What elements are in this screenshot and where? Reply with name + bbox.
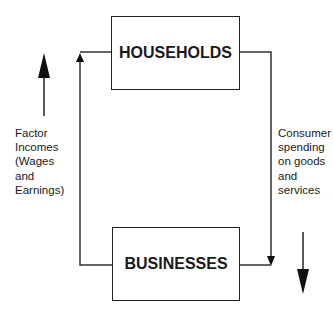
big-down-arrow-icon xyxy=(297,232,309,294)
consumer-spending-line: services xyxy=(278,183,331,197)
factor-incomes-line: and xyxy=(15,169,64,183)
consumer-spending-label: Consumer spending on goods and services xyxy=(278,126,331,197)
consumer-spending-line: spending xyxy=(278,140,331,154)
factor-incomes-label: Factor Incomes (Wages and Earnings) xyxy=(15,126,64,197)
businesses-node: BUSINESSES xyxy=(112,227,240,301)
businesses-label: BUSINESSES xyxy=(124,255,227,273)
consumer-spending-flow-line xyxy=(239,52,271,258)
consumer-spending-line: Consumer xyxy=(278,126,331,140)
factor-incomes-line: Incomes xyxy=(15,140,64,154)
factor-incomes-line: Factor xyxy=(15,126,64,140)
arrowhead-up-icon xyxy=(76,53,84,62)
households-node: HOUSEHOLDS xyxy=(111,16,240,90)
households-label: HOUSEHOLDS xyxy=(119,44,232,62)
factor-incomes-line: Earnings) xyxy=(15,183,64,197)
factor-incomes-line: (Wages xyxy=(15,154,64,168)
factor-income-flow-line xyxy=(80,62,112,265)
big-up-arrow-icon xyxy=(38,53,50,116)
consumer-spending-line: on goods xyxy=(278,154,331,168)
consumer-spending-line: and xyxy=(278,169,331,183)
